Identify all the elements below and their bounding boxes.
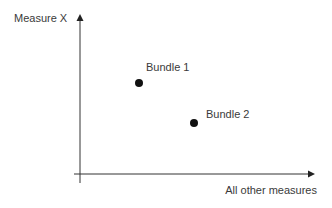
point-label-bundle-2: Bundle 2 xyxy=(206,109,249,120)
chart-canvas xyxy=(0,0,332,208)
data-point-bundle-2 xyxy=(190,119,198,127)
data-point-bundle-1 xyxy=(135,79,143,87)
y-axis-arrow-icon xyxy=(77,14,84,21)
x-axis-arrow-icon xyxy=(308,171,315,178)
y-axis-label: Measure X xyxy=(14,13,67,24)
x-axis-label: All other measures xyxy=(225,185,317,196)
point-label-bundle-1: Bundle 1 xyxy=(146,62,189,73)
